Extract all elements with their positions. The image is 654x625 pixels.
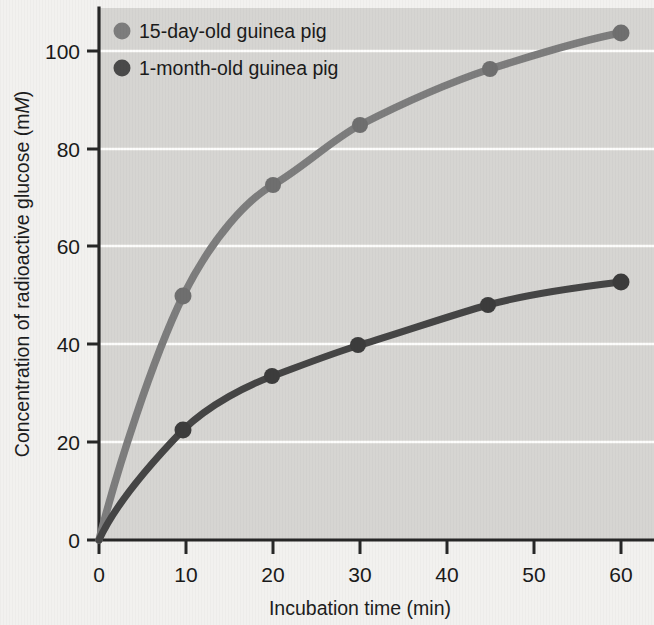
y-axis-title-unit: M [11,97,33,114]
y-tick-label-80: 80 [57,138,80,161]
x-axis-ticks [99,540,621,554]
y-axis-title: Concentration of radioactive glucose (mM… [11,91,33,457]
data-point [265,177,281,193]
y-tick-label-100: 100 [45,40,80,63]
x-axis-title: Incubation time (min) [269,597,451,619]
x-tick-label-10: 10 [174,563,197,586]
legend-label: 15-day-old guinea pig [139,20,327,42]
data-point [350,337,366,353]
y-tick-label-40: 40 [57,333,80,356]
plot-area-background [99,8,654,540]
chart-canvas: 100 80 60 40 20 0 0 10 20 30 40 50 60 [0,0,654,625]
y-tick-label-60: 60 [57,235,80,258]
x-axis-tick-labels: 0 10 20 30 40 50 60 [93,563,633,586]
legend-marker-icon [114,60,131,77]
y-axis-title-prefix: Concentration of radioactive glucose (m [11,114,33,458]
data-point [482,61,498,77]
data-point [480,297,496,313]
y-tick-label-0: 0 [68,529,80,552]
x-tick-label-60: 60 [609,563,632,586]
y-axis-ticks [87,51,99,540]
data-point [352,117,368,133]
y-axis-title-suffix: ) [11,91,33,98]
x-tick-label-50: 50 [522,563,545,586]
y-axis-tick-labels: 100 80 60 40 20 0 [45,40,80,552]
y-tick-label-20: 20 [57,431,80,454]
data-point [175,422,192,439]
data-point [175,288,192,305]
data-point [613,25,630,42]
chart-figure: 100 80 60 40 20 0 0 10 20 30 40 50 60 [0,0,654,625]
x-tick-label-0: 0 [93,563,105,586]
x-tick-label-20: 20 [261,563,284,586]
legend-label: 1-month-old guinea pig [139,57,338,79]
x-tick-label-40: 40 [435,563,458,586]
data-point [264,368,280,384]
legend-item-15-day-old: 15-day-old guinea pig [114,20,327,42]
legend-item-1-month-old: 1-month-old guinea pig [114,57,339,79]
x-tick-label-30: 30 [348,563,371,586]
data-point [613,274,630,291]
legend-marker-icon [114,23,131,40]
